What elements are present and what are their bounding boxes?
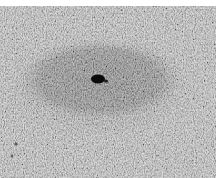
speck: [14, 142, 17, 145]
central-dark-spot: [91, 75, 105, 84]
micrograph-svg: [0, 6, 216, 178]
tissue-texture: [0, 6, 216, 178]
micrograph-image: [0, 6, 216, 178]
spot-fragment: [104, 79, 108, 82]
speck: [11, 155, 14, 158]
